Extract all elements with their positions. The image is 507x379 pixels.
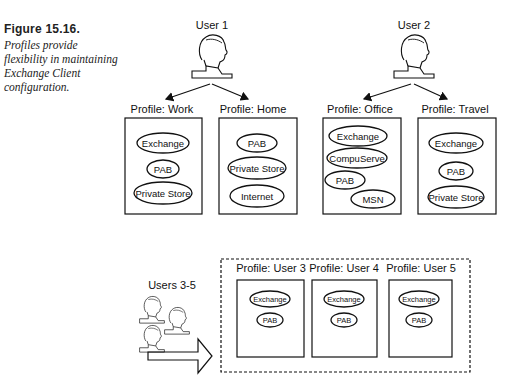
user-1-label: User 1 [196,19,228,31]
service-pab: PAB [412,316,426,325]
service-pab: PAB [336,175,354,186]
profile-travel-title: Profile: Travel [421,103,488,115]
service-exchange: Exchange [337,131,379,142]
profile-user-4: Profile: User 4 Exchange PAB [309,262,379,357]
service-exchange: Exchange [253,295,286,304]
profile-travel: Profile: Travel Exchange PAB Private Sto… [418,103,496,214]
user-1-person-icon [192,35,232,78]
service-exchange: Exchange [435,138,477,149]
service-exchange: Exchange [327,295,360,304]
service-pab: PAB [447,166,465,177]
user-5-person-icon [140,325,165,352]
service-private-store: Private Store [136,188,191,199]
profile-home-title: Profile: Home [220,103,287,115]
arrow-user1-work [166,84,210,99]
service-private-store: Private Store [230,163,285,174]
service-pab: PAB [337,316,351,325]
profile-user-3-title: Profile: User 3 [236,262,306,274]
users-3-5-group: Users 3-5 Profile: User 3 Exchange PAB P… [140,259,470,373]
arrow-user1-home [212,84,248,99]
profile-user-3: Profile: User 3 Exchange PAB [236,262,306,357]
arrow-user2-travel [414,84,447,99]
profile-work-title: Profile: Work [131,103,194,115]
profile-user-5-title: Profile: User 5 [386,262,456,274]
service-compuserve: CompuServe [329,153,384,164]
profile-user-4-title: Profile: User 4 [309,262,379,274]
users-3-5-label: Users 3-5 [148,279,196,291]
user-2-group: User 2 Profile: Office Exchange CompuSer… [323,19,496,214]
service-exchange: Exchange [402,295,435,304]
service-msn: MSN [362,194,383,205]
user-1-group: User 1 Profile: Work Exchange PAB Privat… [125,19,297,214]
profile-office: Profile: Office Exchange CompuServe PAB … [323,103,401,214]
user-4-person-icon [165,307,190,334]
user-2-person-icon [394,35,434,78]
profile-work: Profile: Work Exchange PAB Private Store [125,103,202,214]
service-pab: PAB [263,316,277,325]
service-pab: PAB [154,164,172,175]
user-2-label: User 2 [398,19,430,31]
service-private-store: Private Store [429,192,484,203]
service-exchange: Exchange [142,138,184,149]
profile-home: Profile: Home PAB Private Store Internet [219,103,297,214]
profile-user-5: Profile: User 5 Exchange PAB [386,262,456,357]
profile-office-title: Profile: Office [327,103,393,115]
service-internet: Internet [241,191,274,202]
arrow-user2-office [364,84,411,99]
user-3-person-icon [140,296,165,323]
service-pab: PAB [248,138,266,149]
block-arrow-icon [148,339,212,373]
profiles-diagram: User 1 Profile: Work Exchange PAB Privat… [0,0,507,379]
